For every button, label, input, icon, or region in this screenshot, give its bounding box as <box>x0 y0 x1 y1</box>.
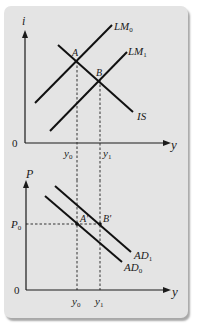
point-a-prime-dot <box>75 222 79 226</box>
point-b-prime-dot <box>98 222 102 226</box>
p0-tick: P0 <box>10 218 22 232</box>
ad0-label: AD0 <box>123 261 143 275</box>
is-curve <box>58 45 133 112</box>
origin-bottom-label: 0 <box>14 284 20 296</box>
y0-tick-top: y0 <box>63 147 73 161</box>
is-lm-ad-diagram: i y 0 LM0 LM1 IS A B y0 y1 P y 0 <box>0 0 197 332</box>
y-axis-top-arrow-icon <box>163 140 171 146</box>
lm1-label: LM1 <box>127 45 147 59</box>
y-axis-bottom-arrow-icon <box>163 287 171 293</box>
is-label: IS <box>136 110 147 122</box>
i-axis-arrow-icon <box>22 30 28 38</box>
y-axis-top-label: y <box>169 137 177 152</box>
i-axis-label: i <box>22 14 25 28</box>
point-b-prime-label: B' <box>103 213 112 224</box>
lm1-curve <box>50 52 127 131</box>
origin-top-label: 0 <box>12 137 18 149</box>
y1-tick-bottom: y1 <box>94 295 104 309</box>
p-axis-label: P <box>25 167 34 181</box>
is-lm-panel: i y 0 LM0 LM1 IS A B y0 y1 <box>12 14 177 180</box>
point-a-label: A <box>71 47 79 58</box>
ad0-curve <box>45 196 122 262</box>
y0-tick-bottom: y0 <box>71 295 81 309</box>
lm0-label: LM0 <box>113 20 133 34</box>
ad-panel: P y 0 P0 A' B' AD1 AD0 y0 y1 <box>10 167 178 309</box>
point-b-label: B <box>96 67 102 78</box>
p-axis-arrow-icon <box>23 180 29 188</box>
ad1-curve <box>55 186 131 252</box>
y-axis-bottom-label: y <box>170 284 178 299</box>
point-a-prime-label: A' <box>79 213 89 224</box>
y1-tick-top: y1 <box>102 147 112 161</box>
